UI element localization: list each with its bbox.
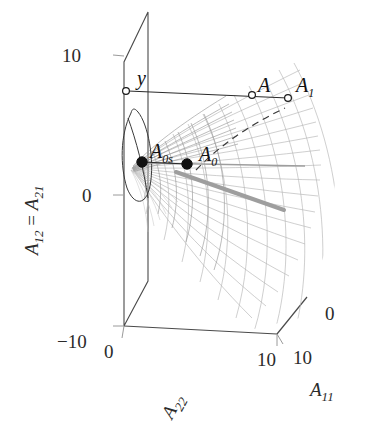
figure-3d-surface-plot: 10 0 −10 0 10 10 0 A12 = A21 A22 A11 y A… xyxy=(0,0,378,438)
axis-vertical-A: A xyxy=(21,243,42,257)
axis-vertical-equals: = xyxy=(21,210,42,230)
svg-text:A22: A22 xyxy=(156,390,191,426)
tick-label-a22-far: 10 xyxy=(257,349,276,370)
label-A0-sub: 0 xyxy=(211,155,217,169)
tick-label-a11-far: 0 xyxy=(325,303,335,324)
label-A: A xyxy=(256,74,271,96)
label-A1-sub: 1 xyxy=(308,86,314,100)
label-A1: A1 xyxy=(294,74,314,100)
axis-a11-A: A xyxy=(308,379,322,400)
label-y-text: y xyxy=(135,67,146,90)
svg-text:A12 = A21: A12 = A21 xyxy=(21,186,46,257)
label-A0s-text: A xyxy=(148,140,163,162)
axis-lines xyxy=(124,297,307,334)
tick-label-vertical-mid: 0 xyxy=(82,185,92,206)
plot-canvas: 10 0 −10 0 10 10 0 A12 = A21 A22 A11 y A… xyxy=(0,0,378,438)
axis-vertical-sub-21: 21 xyxy=(31,186,46,199)
tick-a11-10 xyxy=(277,334,283,344)
svg-text:A11: A11 xyxy=(308,379,334,404)
tick-label-vertical-top: 10 xyxy=(62,45,81,66)
marker-A[interactable] xyxy=(249,92,256,99)
label-y: y xyxy=(135,67,146,90)
tick-vert-10 xyxy=(113,55,124,56)
label-A1-text: A xyxy=(294,74,309,96)
axis-a11-sub: 11 xyxy=(322,389,334,404)
tick-label-vertical-bottom: −10 xyxy=(57,331,87,352)
axis-vertical-sub-12: 12 xyxy=(31,230,46,244)
marker-A1[interactable] xyxy=(285,95,292,102)
label-A0s-sub: 0s xyxy=(162,152,173,166)
axis-vertical-A2: A xyxy=(21,198,42,212)
axis-title-a11: A11 xyxy=(308,379,334,404)
axis-title-vertical: A12 = A21 xyxy=(21,186,46,257)
axis-title-a22: A22 xyxy=(156,390,191,426)
marker-A0[interactable] xyxy=(182,159,192,169)
tick-a22-0 xyxy=(122,326,124,338)
marker-y[interactable] xyxy=(123,88,130,95)
label-A-text: A xyxy=(256,74,271,96)
label-A0-text: A xyxy=(197,143,212,165)
surface-mesh xyxy=(132,63,340,372)
axis-a22-line xyxy=(124,326,277,334)
tick-label-a22-near: 0 xyxy=(104,341,114,362)
marker-A0s[interactable] xyxy=(137,157,147,167)
tick-label-a11-near: 10 xyxy=(293,347,312,368)
